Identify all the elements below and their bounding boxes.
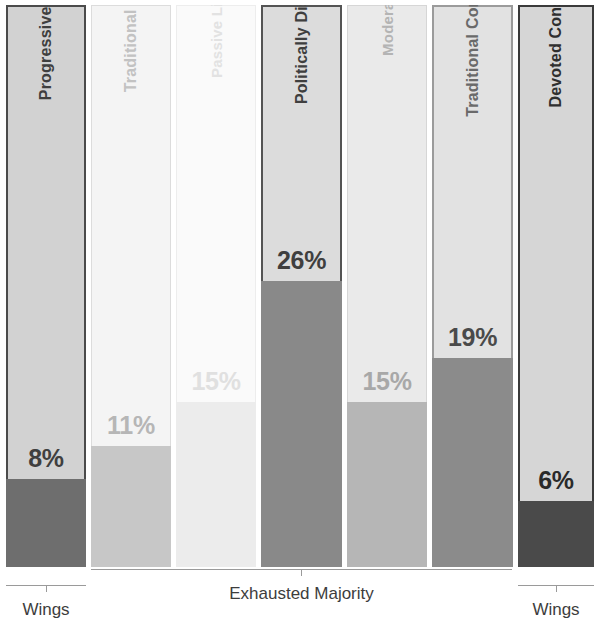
bar-category-label-text: Devoted Conservatives xyxy=(548,5,564,108)
bar-value-label: 8% xyxy=(6,446,86,471)
bar-column-traditional-liberals[interactable]: Traditional Liberals11% xyxy=(91,5,171,567)
bracket-tick xyxy=(301,569,302,576)
bar-fill xyxy=(6,479,86,567)
bracket-exhausted-majority: Exhausted Majority xyxy=(91,567,512,628)
bar-category-label-text: Traditional Liberals xyxy=(123,5,139,92)
bar-fill xyxy=(261,281,342,567)
bar-value-label: 15% xyxy=(347,369,427,394)
bar-column-moderates[interactable]: Moderates15% xyxy=(347,5,427,567)
population-segments-chart: Progressive Activists8%Traditional Liber… xyxy=(0,0,594,628)
bar-value-label: 19% xyxy=(432,325,513,350)
bars-area: Progressive Activists8%Traditional Liber… xyxy=(0,5,594,567)
bar-category-label-text: Politically Disengaged xyxy=(294,5,310,104)
bracket-tick xyxy=(46,585,47,592)
bar-column-traditional-conservatives[interactable]: Traditional Conservatives19% xyxy=(432,5,513,567)
bar-category-label-text: Traditional Conservatives xyxy=(465,5,481,117)
bar-column-politically-disengaged[interactable]: Politically Disengaged26% xyxy=(261,5,342,567)
bracket-tick xyxy=(556,585,557,592)
bar-value-label: 26% xyxy=(261,248,342,273)
bar-column-passive-liberals[interactable]: Passive Liberals15% xyxy=(176,5,256,567)
bar-fill xyxy=(347,402,427,567)
bar-fill xyxy=(176,402,256,567)
bar-value-label: 15% xyxy=(176,369,256,394)
bar-category-label: Devoted Conservatives xyxy=(548,5,564,108)
bar-category-label-text: Moderates xyxy=(380,5,395,56)
bar-fill xyxy=(432,358,513,567)
bracket-label: Exhausted Majority xyxy=(91,585,512,602)
bracket-label: Wings xyxy=(518,601,594,618)
bar-category-label: Traditional Liberals xyxy=(123,5,139,92)
bracket-wings-left: Wings xyxy=(6,567,86,628)
bar-category-label-text: Passive Liberals xyxy=(209,5,224,78)
bar-fill xyxy=(91,446,171,567)
bar-value-label: 11% xyxy=(91,413,171,438)
bar-category-label: Traditional Conservatives xyxy=(465,5,481,117)
bar-category-label: Politically Disengaged xyxy=(294,5,310,104)
bar-category-label: Moderates xyxy=(380,5,395,56)
bar-category-label: Passive Liberals xyxy=(209,5,224,78)
bracket-wings-right: Wings xyxy=(518,567,594,628)
group-brackets: WingsExhausted MajorityWings xyxy=(0,567,594,628)
bar-value-label: 6% xyxy=(518,468,594,493)
bar-category-label: Progressive Activists xyxy=(38,5,54,100)
bar-column-progressive-activists[interactable]: Progressive Activists8% xyxy=(6,5,86,567)
bar-column-devoted-conservatives[interactable]: Devoted Conservatives6% xyxy=(518,5,594,567)
bar-fill xyxy=(518,501,594,567)
bracket-label: Wings xyxy=(6,601,86,618)
bar-category-label-text: Progressive Activists xyxy=(38,5,54,100)
